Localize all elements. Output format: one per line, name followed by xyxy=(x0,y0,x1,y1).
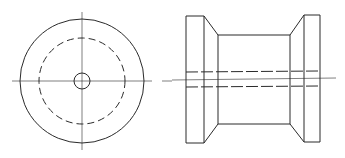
drawing-svg xyxy=(0,0,345,158)
right-chamfer-bottom xyxy=(290,124,304,142)
side-view xyxy=(172,15,336,143)
left-chamfer-top xyxy=(204,16,218,35)
right-chamfer-top xyxy=(290,15,304,35)
technical-drawing: Spool orthographic drawing xyxy=(0,0,345,158)
hidden-bore-top xyxy=(186,71,320,72)
hidden-bore-bottom xyxy=(186,86,320,87)
left-chamfer-bottom xyxy=(204,124,218,143)
end-view xyxy=(12,12,172,150)
side-centerline xyxy=(172,78,336,80)
